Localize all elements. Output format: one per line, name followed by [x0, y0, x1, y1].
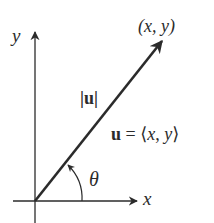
magnitude-label: |u|	[80, 89, 98, 107]
vector-tip-label: (x, y)	[138, 17, 175, 35]
diagram-graphics	[0, 0, 214, 223]
vector-definition-text: u = ⟨x, y⟩	[111, 124, 179, 144]
angle-label: θ	[89, 169, 99, 189]
y-axis-label: y	[12, 26, 20, 45]
x-axis-label: x	[143, 189, 151, 208]
vector-diagram: y x (x, y) |u| u = ⟨x, y⟩ θ	[0, 0, 214, 223]
vector-definition-label: u = ⟨x, y⟩	[111, 125, 179, 143]
angle-theta-arc	[68, 165, 82, 201]
